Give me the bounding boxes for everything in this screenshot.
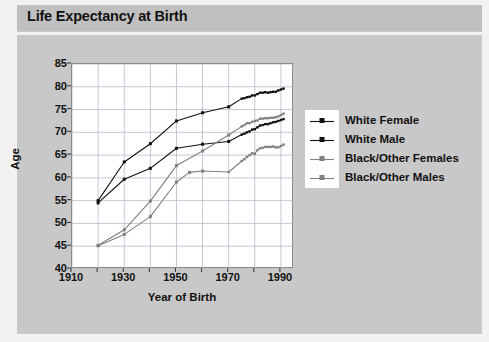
legend-item[interactable]: Black/Other Males [305,169,485,188]
data-point-marker [269,122,271,124]
legend-item[interactable]: Black/Other Females [305,150,485,169]
data-point-marker [269,117,271,119]
plot-svg [72,64,294,269]
x-tick-label: 1950 [163,271,187,283]
y-tick-label: 70 [41,125,67,137]
legend-item[interactable]: White Male [305,131,485,150]
legend-item[interactable]: White Female [305,112,485,131]
x-tick-label: 1910 [59,271,83,283]
data-point-marker [254,94,256,96]
data-point-marker [259,124,261,126]
data-point-marker [149,200,152,203]
chart-page: Life Expectancy at Birth Age 40455055606… [0,0,489,342]
data-point-marker [261,117,263,119]
data-point-marker [149,142,152,145]
data-point-marker [272,145,274,147]
data-point-marker [201,150,204,153]
data-point-marker [275,121,277,123]
data-point-marker [248,130,250,132]
data-point-marker [227,105,230,108]
data-point-marker [275,91,277,93]
series-line-black-other-females [98,114,283,246]
data-point-marker [243,97,245,99]
legend-marker-icon [309,150,335,169]
y-tick-label: 85 [41,57,67,69]
data-point-marker [123,178,126,181]
data-point-marker [282,118,284,120]
data-point-marker [259,147,261,149]
data-point-marker [254,128,256,130]
data-point-marker [280,114,282,116]
data-point-marker [272,121,274,123]
data-point-marker [175,180,178,183]
legend-item-label: White Female [345,114,419,126]
legend-item-label: Black/Other Males [345,171,445,183]
data-point-marker [201,111,204,114]
y-axis-ticks: 40455055606570758085 [37,63,67,268]
data-point-marker [267,146,269,148]
data-point-marker [282,112,284,114]
data-point-marker [267,123,269,125]
data-point-marker [261,92,263,94]
data-point-marker [123,233,126,236]
chart-legend: White FemaleWhite MaleBlack/Other Female… [305,110,485,188]
data-point-marker [246,131,248,133]
data-point-marker [246,122,248,124]
data-point-marker [256,126,258,128]
data-point-marker [188,171,191,174]
x-tick-label: 1990 [268,271,292,283]
data-point-marker [243,158,245,160]
data-point-marker [246,156,248,158]
data-point-marker [256,93,258,95]
data-point-marker [259,117,261,119]
y-tick-label: 55 [41,194,67,206]
page-margin-bottom [0,334,489,342]
data-point-marker [269,91,271,93]
data-point-marker [243,133,245,135]
x-tick-label: 1930 [111,271,135,283]
data-point-marker [264,123,266,125]
x-axis-label: Year of Birth [71,291,293,303]
data-point-marker [228,171,230,173]
data-point-marker [251,128,253,130]
data-point-marker [175,119,178,122]
plot-area [71,63,293,268]
data-point-marker [259,92,261,94]
data-point-marker [251,94,253,96]
y-axis-label: Age [9,148,21,170]
legend-marker-icon [309,169,335,188]
data-point-marker [97,201,100,204]
data-point-marker [280,119,282,121]
data-point-marker [280,145,282,147]
page-title: Life Expectancy at Birth [27,8,187,24]
data-point-marker [277,115,279,117]
data-point-marker [277,89,279,91]
data-point-marker [267,92,269,94]
data-point-marker [248,122,250,124]
data-point-marker [256,119,258,121]
y-tick-label: 80 [41,80,67,92]
legend-item-label: White Male [345,133,405,145]
data-point-marker [201,143,204,146]
data-point-marker [269,146,271,148]
data-point-marker [175,164,178,167]
data-point-marker [280,88,282,90]
data-point-marker [261,124,263,126]
data-point-marker [97,244,100,247]
data-point-marker [243,124,245,126]
data-point-marker [227,140,230,143]
page-margin-left [0,0,17,342]
data-point-marker [227,134,230,137]
data-point-marker [275,116,277,118]
data-point-marker [261,147,263,149]
y-tick-label: 65 [41,148,67,160]
y-tick-label: 45 [41,239,67,251]
data-point-marker [241,160,243,162]
data-point-marker [149,167,152,170]
series-line-white-female [98,89,283,201]
x-tick-label: 1970 [215,271,239,283]
y-tick-label: 60 [41,171,67,183]
data-point-marker [277,146,279,148]
data-point-marker [256,149,258,151]
data-point-marker [241,133,243,135]
